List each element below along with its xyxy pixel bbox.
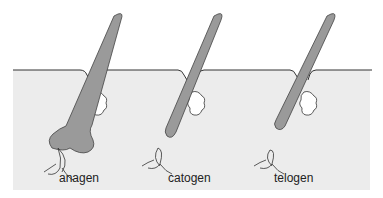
hair-cycle-diagram <box>0 0 383 198</box>
anagen-label: anagen <box>59 171 99 185</box>
catogen-label: catogen <box>168 171 211 185</box>
telogen-label: telogen <box>274 171 313 185</box>
